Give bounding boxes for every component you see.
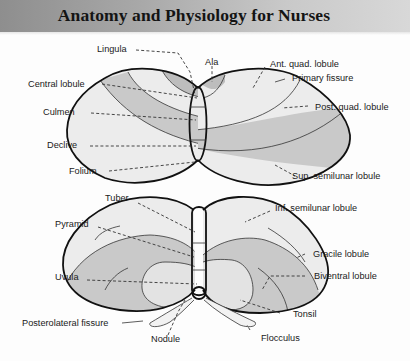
- label-folium: Folium: [69, 166, 97, 176]
- label-primary-fissure: Primary fissure: [292, 73, 353, 83]
- label-post-quad-lobule: Post. quad. lobule: [315, 102, 389, 112]
- label-flocculus: Flocculus: [261, 333, 300, 343]
- label-nodule: Nodule: [151, 334, 180, 344]
- label-ant-quad-lobule: Ant. quad. lobule: [270, 59, 339, 69]
- label-tonsil: Tonsil: [293, 309, 317, 319]
- label-uvula: Uvula: [55, 272, 79, 282]
- label-central-lobule: Central lobule: [28, 79, 85, 89]
- label-posterolateral-fissure: Posterolateral fissure: [22, 318, 108, 328]
- label-inf-semilunar-lobule: Inf. semilunar lobule: [275, 203, 357, 213]
- label-ala: Ala: [205, 57, 219, 67]
- label-tuber: Tuber: [105, 193, 129, 203]
- label-sup-semilunar-lobule: Sup. semilunar lobule: [292, 171, 380, 181]
- cerebellum-diagram: Lingula Central lobule Culmen Declive Fo…: [0, 0, 410, 361]
- label-biventral-lobule: Biventral lobule: [314, 271, 377, 281]
- nodule-shape: [193, 287, 206, 299]
- label-declive: Declive: [47, 140, 77, 150]
- label-gracile-lobule: Gracile lobule: [313, 249, 369, 259]
- label-lingula: Lingula: [97, 44, 128, 54]
- label-pyramid: Pyramid: [55, 219, 89, 229]
- label-culmen: Culmen: [43, 107, 75, 117]
